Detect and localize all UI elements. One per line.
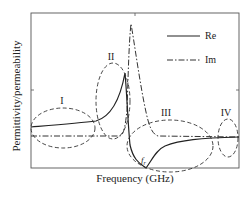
- region-ellipse-1: [31, 108, 95, 148]
- legend-im-label: Im: [205, 54, 216, 65]
- chart: I II III IV fr Re Im: [0, 0, 251, 198]
- region-ellipse-3: [127, 120, 213, 172]
- region-label-2: II: [108, 51, 115, 62]
- y-axis-label: Permittivity/permeability: [10, 36, 22, 156]
- region-label-1: I: [60, 95, 63, 106]
- x-axis-label: Frequency (GHz): [0, 172, 251, 184]
- resonance-label: fr: [141, 155, 147, 166]
- region-ellipse-2: [96, 63, 130, 139]
- region-label-4: IV: [221, 107, 232, 118]
- series-re: [31, 73, 239, 168]
- legend: Re Im: [167, 30, 217, 65]
- region-label-3: III: [161, 107, 171, 118]
- legend-re-label: Re: [205, 30, 217, 41]
